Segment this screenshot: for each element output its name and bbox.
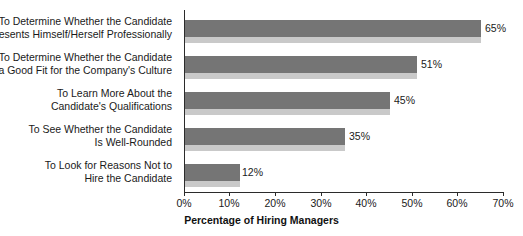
category-label: To Look for Reasons Not to Hire the Cand…	[0, 154, 178, 190]
category-label-line2: Presents Himself/Herself Professionally	[0, 28, 172, 42]
x-axis-title: Percentage of Hiring Managers	[0, 214, 523, 226]
x-axis-tick-label: 30%	[310, 197, 331, 210]
x-axis-tick-label: 50%	[401, 197, 422, 210]
bar-shadow	[185, 109, 390, 115]
x-axis-tick-label: 0%	[176, 197, 191, 210]
bar-chart: To Determine Whether the Candidate Prese…	[0, 0, 523, 236]
bar-group	[185, 46, 417, 82]
chart-row: To Learn More About the Candidate's Qual…	[0, 82, 523, 118]
x-axis-tick-label: 70%	[492, 197, 513, 210]
category-label-line1: To Look for Reasons Not to	[45, 159, 172, 173]
category-label-line1: To See Whether the Candidate	[28, 123, 172, 137]
x-axis-tick	[412, 192, 413, 196]
category-label-line2: Hire the Candidate	[84, 172, 172, 186]
bar-group	[185, 154, 240, 190]
category-label: To Learn More About the Candidate's Qual…	[0, 82, 178, 118]
category-label-line2: Is Well-Rounded	[95, 136, 172, 150]
bar-value-label: 35%	[349, 129, 370, 144]
bar-shadow	[185, 73, 417, 79]
x-axis-tick	[229, 192, 230, 196]
category-label: To See Whether the Candidate Is Well-Rou…	[0, 118, 178, 154]
bar-value-label: 45%	[394, 93, 415, 108]
x-axis-tick	[366, 192, 367, 196]
bar-shadow	[185, 145, 345, 151]
bar	[185, 56, 417, 73]
bar-value-label: 12%	[242, 165, 263, 180]
bar	[185, 92, 390, 109]
category-label: To Determine Whether the Candidate Prese…	[0, 10, 178, 46]
bar-shadow	[185, 181, 240, 187]
bar-group	[185, 118, 345, 154]
x-axis-tick	[275, 192, 276, 196]
category-label-line2: Is a Good Fit for the Company's Culture	[0, 64, 172, 78]
chart-row: To Look for Reasons Not to Hire the Cand…	[0, 154, 523, 190]
category-label-line2: Candidate's Qualifications	[51, 100, 172, 114]
x-axis-tick-label: 10%	[218, 197, 239, 210]
x-axis-tick-label: 20%	[264, 197, 285, 210]
x-axis-tick	[184, 192, 185, 196]
bar	[185, 20, 481, 37]
bar	[185, 128, 345, 145]
chart-row: To Determine Whether the Candidate Is a …	[0, 46, 523, 82]
category-label-line1: To Determine Whether the Candidate	[0, 15, 172, 29]
bar-shadow	[185, 37, 481, 43]
bar-group	[185, 10, 481, 46]
chart-row: To See Whether the Candidate Is Well-Rou…	[0, 118, 523, 154]
bar-group	[185, 82, 390, 118]
x-axis-tick	[503, 192, 504, 196]
chart-row: To Determine Whether the Candidate Prese…	[0, 10, 523, 46]
value-axis-line	[184, 10, 185, 192]
bar-value-label: 65%	[485, 21, 506, 36]
bar-value-label: 51%	[421, 57, 442, 72]
x-axis-tick-label: 40%	[355, 197, 376, 210]
bar	[185, 164, 240, 181]
category-axis-line	[184, 192, 503, 193]
category-label-line1: To Learn More About the	[57, 87, 172, 101]
x-axis-tick	[457, 192, 458, 196]
category-label-line1: To Determine Whether the Candidate	[0, 51, 172, 65]
x-axis-tick	[321, 192, 322, 196]
x-axis-tick-label: 60%	[446, 197, 467, 210]
category-label: To Determine Whether the Candidate Is a …	[0, 46, 178, 82]
